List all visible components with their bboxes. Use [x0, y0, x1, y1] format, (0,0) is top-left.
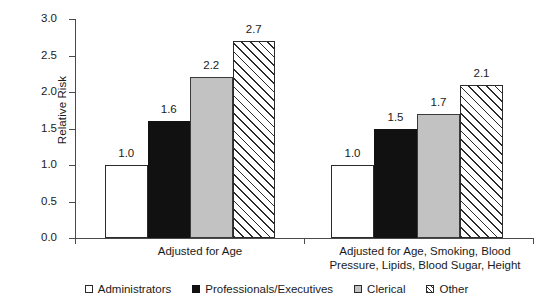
y-axis-tick-label-wrap: 0.0 — [0, 232, 69, 233]
legend-item-label: Professionals/Executives — [205, 283, 333, 295]
y-axis-tick-label: 0.0 — [23, 232, 57, 244]
y-axis-tick-label-wrap: 3.0 — [0, 13, 69, 14]
x-category-label-line: Pressure, Lipids, Blood Sugar, Height — [310, 259, 540, 273]
y-axis-tick-label: 0.5 — [23, 196, 57, 208]
bar-value-label: 1.0 — [330, 148, 376, 160]
bar-white — [331, 165, 374, 238]
legend-item-label: Clerical — [367, 283, 405, 295]
chart-legend: AdministratorsProfessionals/ExecutivesCl… — [0, 283, 553, 295]
legend-item: Administrators — [85, 283, 172, 295]
bar-black — [374, 129, 417, 239]
bar-value-label: 1.0 — [103, 148, 149, 160]
bar-value-label: 1.5 — [373, 112, 419, 124]
x-category-label-line: Adjusted for Age — [110, 245, 290, 259]
x-category-label: Adjusted for Age, Smoking, BloodPressure… — [310, 245, 540, 272]
legend-item: Other — [426, 283, 468, 295]
y-axis-tick-label: 3.0 — [23, 13, 57, 25]
x-axis-tick-mark — [75, 238, 76, 244]
bar-value-label: 2.1 — [459, 68, 505, 80]
gray-square-swatch-icon — [354, 285, 362, 293]
y-axis-tick-label: 2.0 — [23, 86, 57, 98]
y-axis-tick-label: 2.5 — [23, 50, 57, 62]
y-axis-tick-label-wrap: 2.0 — [0, 86, 69, 87]
bar-value-label: 2.7 — [231, 24, 277, 36]
y-axis-tick-label-wrap: 1.0 — [0, 159, 69, 160]
legend-item: Clerical — [354, 283, 405, 295]
bar-black — [148, 121, 191, 238]
bar-value-label: 1.6 — [146, 104, 192, 116]
bar-gray — [190, 77, 233, 238]
bar-gray — [417, 114, 460, 238]
y-axis-tick-label: 1.5 — [23, 123, 57, 135]
filled-square-swatch-icon — [192, 285, 200, 293]
hatched-square-swatch-icon — [426, 285, 434, 293]
legend-item-label: Other — [439, 283, 468, 295]
y-axis-tick-label-wrap: 1.5 — [0, 123, 69, 124]
bar-hatch — [460, 85, 503, 238]
y-axis-tick-label-wrap: 2.5 — [0, 50, 69, 51]
x-axis-tick-mark — [304, 238, 305, 244]
bar-value-label: 1.7 — [416, 97, 462, 109]
x-category-label: Adjusted for Age — [110, 245, 290, 259]
open-square-swatch-icon — [85, 285, 93, 293]
legend-item: Professionals/Executives — [192, 283, 333, 295]
bar-value-label: 2.2 — [188, 60, 234, 72]
plot-area — [75, 19, 533, 238]
legend-item-label: Administrators — [98, 283, 172, 295]
y-axis-tick-label-wrap: 0.5 — [0, 196, 69, 197]
bar-white — [105, 165, 148, 238]
bar-hatch — [233, 41, 276, 238]
relative-risk-bar-chart: Relative Risk 0.00.51.01.52.02.53.0 1.01… — [0, 0, 553, 303]
y-axis-tick-label: 1.0 — [23, 159, 57, 171]
x-axis-tick-mark — [533, 238, 534, 244]
x-category-label-line: Adjusted for Age, Smoking, Blood — [310, 245, 540, 259]
